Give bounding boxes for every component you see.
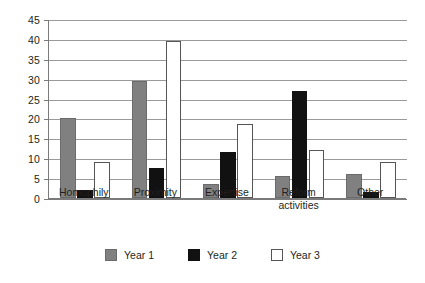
y-axis-tick-label: 30 <box>4 75 40 86</box>
bar-group-bars <box>335 19 407 198</box>
x-axis-tick-label: Other <box>334 186 406 199</box>
legend-item-label: Year 1 <box>124 249 154 261</box>
black-swatch <box>188 249 200 261</box>
bar-group-bars <box>192 19 264 198</box>
y-axis-tick-label: 25 <box>4 95 40 106</box>
y-axis-tick-label: 15 <box>4 134 40 145</box>
bar-chart: 051015202530354045 HomophilyProximityExp… <box>0 0 425 283</box>
legend-item-label: Year 3 <box>290 249 320 261</box>
bar-group <box>192 19 264 198</box>
y-axis-tick-label: 35 <box>4 55 40 66</box>
y-axis-tick-label: 10 <box>4 154 40 165</box>
x-axis-tick-label: Expertise <box>191 186 263 199</box>
gridline-0 <box>49 199 407 200</box>
bar-group-bars <box>264 19 336 198</box>
bar[interactable] <box>292 91 308 198</box>
legend-item-label: Year 2 <box>207 249 237 261</box>
white-swatch <box>271 249 283 261</box>
bar-group <box>264 19 336 198</box>
x-axis-tick-label: Proximity <box>120 186 192 199</box>
x-axis-tick-label: Reform activities <box>263 186 335 211</box>
y-axis-tick-label: 5 <box>4 174 40 185</box>
bar-group <box>121 19 193 198</box>
gray-swatch <box>105 249 117 261</box>
chart-legend: Year 1Year 2Year 3 <box>0 249 425 261</box>
legend-item[interactable]: Year 2 <box>188 249 237 261</box>
bar-group <box>335 19 407 198</box>
bar-group-bars <box>121 19 193 198</box>
y-axis-tick-label: 0 <box>4 194 40 205</box>
y-tick-mark-0 <box>44 199 49 200</box>
bar[interactable] <box>132 81 148 198</box>
bar-group-bars <box>49 19 121 198</box>
bar[interactable] <box>166 41 182 198</box>
bar-group <box>49 19 121 198</box>
x-axis-tick-label: Homophily <box>48 186 120 199</box>
y-axis-tick-label: 20 <box>4 114 40 125</box>
y-axis-tick-label: 40 <box>4 35 40 46</box>
legend-item[interactable]: Year 3 <box>271 249 320 261</box>
y-axis-tick-label: 45 <box>4 15 40 26</box>
plot-area <box>48 20 406 199</box>
legend-item[interactable]: Year 1 <box>105 249 154 261</box>
